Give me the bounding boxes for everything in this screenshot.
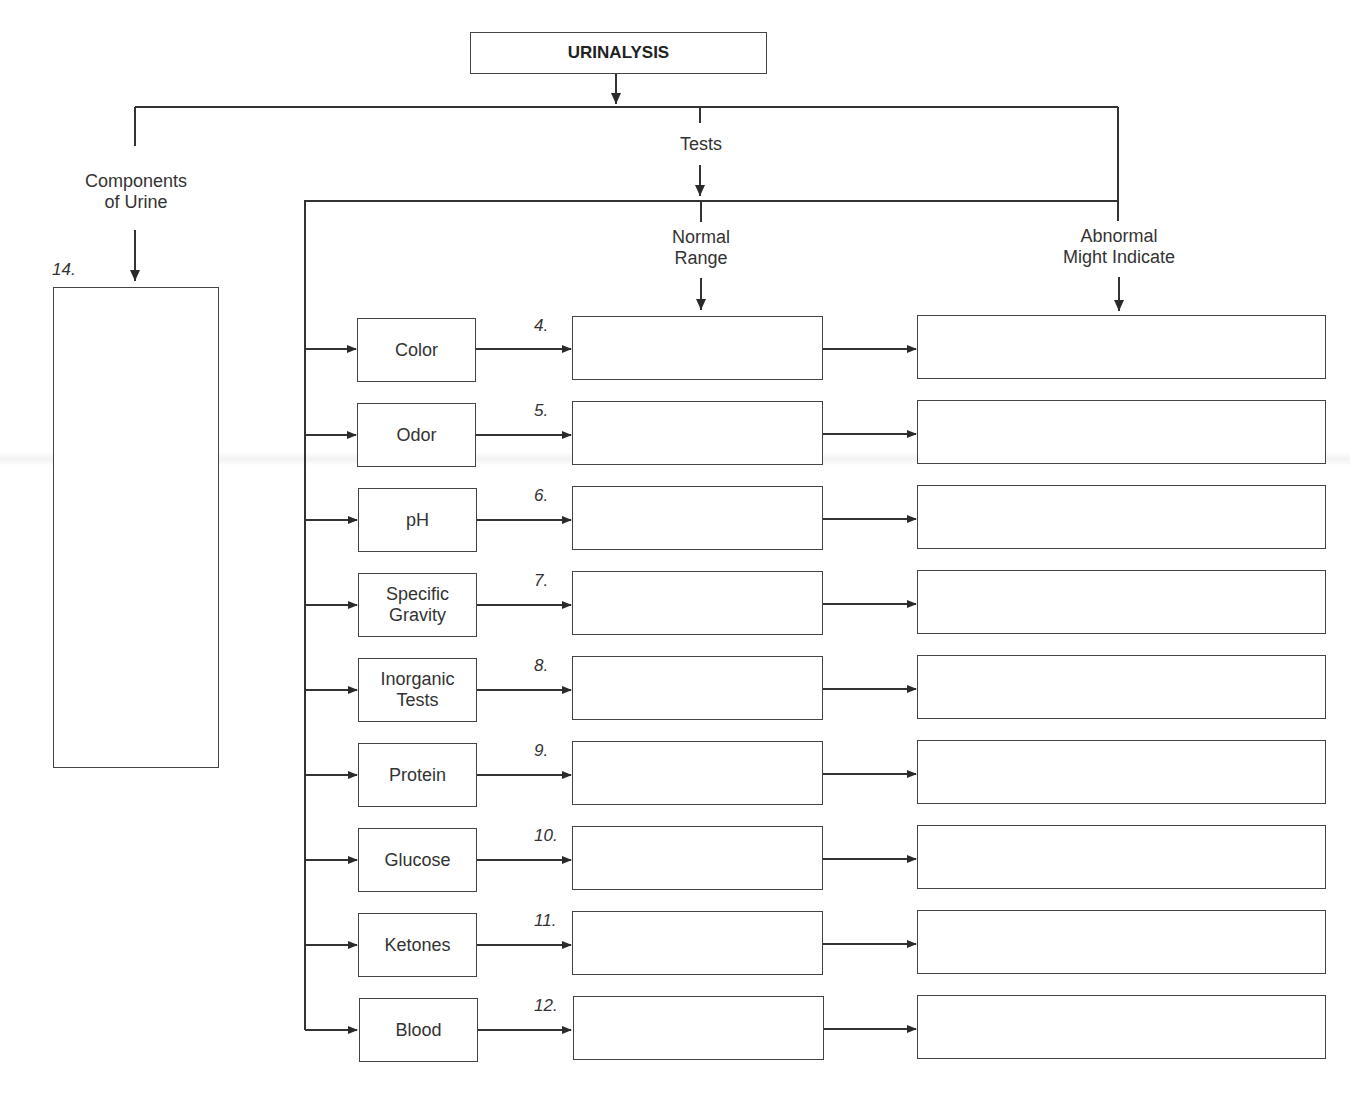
test-label: Specific	[386, 584, 449, 605]
item-number: 8.	[534, 656, 548, 676]
test-label: Ketones	[384, 935, 450, 956]
abnormal-box-ketones[interactable]	[917, 910, 1326, 974]
test-label: Blood	[395, 1020, 441, 1041]
components-label-line2: of Urine	[85, 192, 187, 213]
normal-range-box-glucose[interactable]	[572, 826, 823, 890]
urinalysis-title-box: URINALYSIS	[470, 32, 767, 74]
abnormal-box-protein[interactable]	[917, 740, 1326, 804]
test-box-blood: Blood	[359, 998, 478, 1062]
abnormal-box-ph[interactable]	[917, 485, 1326, 549]
normal-range-box-odor[interactable]	[572, 401, 823, 465]
test-box-ph: pH	[358, 488, 477, 552]
item-number: 12.	[534, 996, 558, 1016]
item-number: 6.	[534, 486, 548, 506]
test-box-odor: Odor	[357, 403, 476, 467]
test-label: Odor	[396, 425, 436, 446]
normal-range-box-specific-gravity[interactable]	[572, 571, 823, 635]
test-label-line2: Gravity	[386, 605, 449, 626]
components-label-line1: Components	[85, 171, 187, 192]
normal-range-box-color[interactable]	[572, 316, 823, 380]
item-number: 5.	[534, 401, 548, 421]
normal-range-label-line2: Range	[672, 248, 730, 269]
normal-range-box-ph[interactable]	[572, 486, 823, 550]
components-answer-box[interactable]	[53, 287, 219, 768]
abnormal-label: Abnormal Might Indicate	[1063, 226, 1175, 268]
abnormal-box-glucose[interactable]	[917, 825, 1326, 889]
test-box-inorganic-tests: InorganicTests	[358, 658, 477, 722]
test-label: pH	[406, 510, 429, 531]
abnormal-label-line2: Might Indicate	[1063, 247, 1175, 268]
test-box-ketones: Ketones	[358, 913, 477, 977]
test-label: Glucose	[384, 850, 450, 871]
item-number: 10.	[534, 826, 558, 846]
page-title: URINALYSIS	[568, 43, 669, 63]
test-box-specific-gravity: SpecificGravity	[358, 573, 477, 637]
abnormal-box-blood[interactable]	[917, 995, 1326, 1059]
components-label: Components of Urine	[85, 171, 187, 213]
item-number: 4.	[534, 316, 548, 336]
abnormal-label-line1: Abnormal	[1063, 226, 1175, 247]
normal-range-box-blood[interactable]	[573, 996, 824, 1060]
test-label: Color	[395, 340, 438, 361]
components-item-number: 14.	[52, 260, 76, 280]
abnormal-box-color[interactable]	[917, 315, 1326, 379]
abnormal-box-odor[interactable]	[917, 400, 1326, 464]
item-number: 7.	[534, 571, 548, 591]
normal-range-box-ketones[interactable]	[572, 911, 823, 975]
test-box-protein: Protein	[358, 743, 477, 807]
test-box-glucose: Glucose	[358, 828, 477, 892]
test-label-line2: Tests	[380, 690, 454, 711]
normal-range-label-line1: Normal	[672, 227, 730, 248]
tests-label: Tests	[680, 134, 722, 155]
test-label: Protein	[389, 765, 446, 786]
abnormal-box-specific-gravity[interactable]	[917, 570, 1326, 634]
normal-range-box-inorganic-tests[interactable]	[572, 656, 823, 720]
normal-range-box-protein[interactable]	[572, 741, 823, 805]
normal-range-label: Normal Range	[672, 227, 730, 269]
test-label: Inorganic	[380, 669, 454, 690]
abnormal-box-inorganic-tests[interactable]	[917, 655, 1326, 719]
item-number: 11.	[534, 911, 556, 931]
item-number: 9.	[534, 741, 548, 761]
test-box-color: Color	[357, 318, 476, 382]
